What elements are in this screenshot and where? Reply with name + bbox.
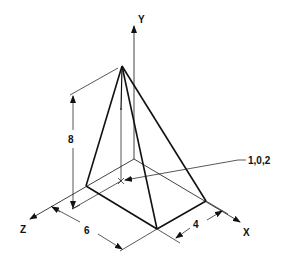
height-label: 8 [68, 134, 74, 145]
edge-base-front-right [157, 201, 206, 229]
point-label: 1,0,2 [248, 155, 271, 166]
pyramid-diagram: 8 6 4 1,0,2 Y Z X [0, 0, 293, 268]
base-z-label: 6 [84, 225, 90, 236]
base-x-label: 4 [193, 219, 199, 230]
z-dim-upper [52, 207, 80, 222]
x-axis-label: X [243, 227, 250, 238]
z-axis-label: Z [20, 224, 26, 235]
height-ext-top [70, 68, 118, 95]
x-dim-ext-right [206, 201, 228, 214]
pyramid [86, 66, 206, 229]
x-dim-upper [207, 211, 222, 220]
edge-apex-front [122, 66, 157, 229]
edge-apex-right [122, 66, 206, 201]
height-dimension [70, 68, 118, 209]
z-axis [30, 159, 134, 219]
edge-base-left-front [86, 186, 157, 229]
hidden-base-line [72, 181, 121, 209]
x-dim-ext-front [157, 229, 180, 243]
z-dim-ext-front [120, 229, 157, 251]
z-dim-lower [98, 234, 122, 249]
y-axis-label: Y [138, 14, 145, 25]
edge-apex-left [86, 66, 122, 186]
edge-apex-center [121, 66, 122, 110]
base-z-dimension [51, 206, 157, 251]
x-dim-lower [176, 228, 190, 238]
